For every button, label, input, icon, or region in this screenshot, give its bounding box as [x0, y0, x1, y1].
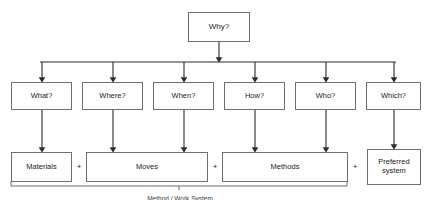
question-node-who[interactable]: Who?	[295, 82, 356, 110]
brace-caption: Method / Work System	[60, 195, 300, 200]
question-node-when[interactable]: When?	[153, 82, 214, 110]
question-node-which[interactable]: Which?	[366, 82, 421, 110]
question-node-what[interactable]: What?	[11, 82, 72, 110]
result-node-label: Materials	[24, 163, 58, 172]
plus-operator: +	[350, 163, 360, 171]
root-node-why[interactable]: Why?	[188, 12, 250, 42]
question-node-label: When?	[170, 92, 198, 101]
question-node-how[interactable]: How?	[224, 82, 285, 110]
question-node-label: Where?	[97, 92, 127, 101]
result-node-label: Preferred system	[368, 158, 420, 175]
question-node-label: Which?	[379, 92, 408, 101]
diagram-canvas: Why? What?Where?When?How?Who?Which? Mate…	[0, 0, 432, 200]
result-node-preferred-system[interactable]: Preferred system	[367, 149, 421, 185]
result-node-materials[interactable]: Materials	[11, 152, 72, 182]
question-node-label: What?	[29, 92, 55, 101]
result-node-label: Moves	[134, 163, 160, 172]
question-node-label: How?	[243, 92, 266, 101]
result-node-label: Methods	[269, 163, 302, 172]
result-node-moves[interactable]: Moves	[86, 152, 208, 182]
plus-operator: +	[74, 163, 84, 171]
question-node-label: Who?	[314, 92, 338, 101]
plus-operator: +	[210, 163, 220, 171]
question-node-where[interactable]: Where?	[82, 82, 143, 110]
root-node-label: Why?	[207, 22, 231, 31]
result-node-methods[interactable]: Methods	[222, 152, 348, 182]
